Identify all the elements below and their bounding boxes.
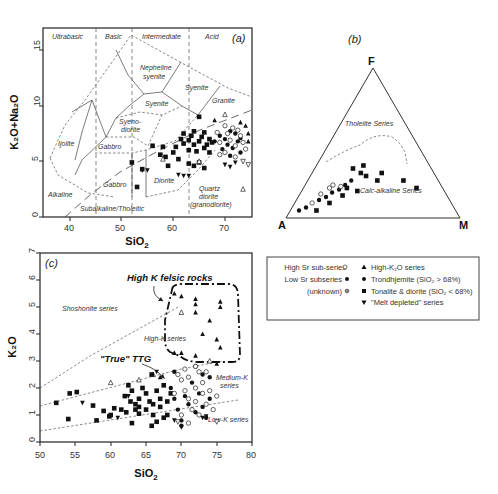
data-point <box>193 296 198 301</box>
data-point <box>161 383 166 388</box>
data-point <box>223 163 228 168</box>
field-label-gabbro-lower: Gabbro <box>103 181 126 188</box>
data-point <box>171 150 176 155</box>
field-label-granite: Granite <box>212 97 235 104</box>
y-tick-0: 0 <box>30 212 40 217</box>
y-tick-4: 4 <box>27 329 37 334</box>
data-point <box>379 171 384 176</box>
data-point <box>181 131 186 136</box>
data-point <box>193 386 197 390</box>
panel-a-x-ticks: 40 50 60 70 <box>64 217 229 233</box>
y-tick-0: 0 <box>27 437 37 442</box>
label-mediumk-2: series <box>220 382 239 389</box>
data-point <box>183 389 187 393</box>
data-point <box>223 124 227 128</box>
y-tick-6: 6 <box>27 275 37 280</box>
field-label-qd-1: Quartz <box>199 185 221 193</box>
data-point <box>101 409 106 414</box>
data-point <box>151 413 156 418</box>
data-point <box>151 402 156 407</box>
data-point <box>223 137 227 141</box>
data-point <box>197 139 202 144</box>
data-point <box>74 390 79 395</box>
field-nepheline <box>116 50 181 94</box>
data-point <box>193 364 197 368</box>
data-point <box>228 154 232 158</box>
data-point <box>202 166 207 171</box>
legend-circle-filled-icon <box>345 277 349 281</box>
data-point <box>207 318 212 323</box>
legend-left-1: Low Sr subseries <box>284 275 342 284</box>
data-point <box>200 331 205 336</box>
data-point <box>246 163 251 168</box>
data-point <box>233 160 238 165</box>
data-point <box>150 143 155 148</box>
data-point <box>317 198 321 202</box>
data-point <box>108 413 113 418</box>
panel-c-label: (c) <box>45 257 58 269</box>
header-basic: Basic <box>105 33 123 40</box>
data-point <box>200 380 204 384</box>
data-point <box>119 407 124 412</box>
legend-square-icon <box>362 289 366 293</box>
data-point <box>154 388 159 393</box>
x-tick-65: 65 <box>141 450 151 460</box>
panel-a-y-ticks: 0 5 10 15 <box>30 40 43 217</box>
data-point <box>228 165 233 170</box>
data-point <box>172 397 176 401</box>
field-label-qd-2: diorite <box>199 193 218 200</box>
x-tick-60: 60 <box>167 223 177 233</box>
data-point <box>205 142 210 147</box>
legend-trondhjemite-icon <box>362 277 366 281</box>
annotation-true-ttg: "True" TTG <box>100 353 152 364</box>
legend-left-2: (unknown) <box>307 287 343 296</box>
data-point <box>91 403 96 408</box>
data-point <box>166 164 171 169</box>
afm-triangle <box>286 68 460 218</box>
y-tick-2: 2 <box>27 383 37 388</box>
data-point <box>186 402 190 406</box>
data-point <box>186 397 190 401</box>
data-point <box>327 201 332 206</box>
vertex-m: M <box>459 219 468 231</box>
data-point <box>207 150 212 155</box>
data-point <box>207 358 212 363</box>
field-label-syenite-upper: Syenite <box>185 84 208 92</box>
data-point <box>135 185 140 190</box>
x-tick-55: 55 <box>70 450 80 460</box>
data-point <box>202 130 207 135</box>
data-point <box>225 142 229 146</box>
x-tick-70: 70 <box>176 450 186 460</box>
data-point <box>108 380 113 385</box>
data-point <box>207 397 211 401</box>
legend-circle-grey-icon <box>345 289 349 293</box>
data-point <box>161 145 166 150</box>
data-point <box>192 129 197 134</box>
data-point <box>154 419 159 424</box>
data-point <box>179 425 184 430</box>
data-point <box>241 159 246 164</box>
data-point <box>207 389 211 393</box>
tholeiite-calcalkaline-boundary <box>326 136 407 164</box>
panel-b-label: (b) <box>348 33 362 45</box>
data-point <box>200 391 204 395</box>
data-point <box>158 405 163 410</box>
field-label-subalkaline: Subalkaline/Tholeitic <box>80 205 145 212</box>
x-tick-50: 50 <box>35 450 45 460</box>
panel-c-k2o-sio2: (c) Shoshonite series High-K series Medi… <box>6 248 256 482</box>
high-k-felsic-enclosure <box>165 284 240 362</box>
data-point <box>238 150 242 154</box>
panel-c-x-ticks: 50 55 60 65 70 75 80 <box>35 442 256 460</box>
x-tick-50: 50 <box>115 223 125 233</box>
panel-c-xlabel: SiO2 <box>134 467 158 482</box>
data-point <box>186 161 191 166</box>
data-point <box>112 406 117 411</box>
data-point <box>186 138 191 143</box>
data-point <box>212 118 217 123</box>
data-point <box>197 370 201 374</box>
field-label-alkaline: Alkaline <box>47 191 73 198</box>
data-point <box>218 140 222 144</box>
data-point <box>193 310 198 315</box>
label-mediumk-1: Medium-K <box>216 374 248 381</box>
data-point <box>204 370 208 374</box>
